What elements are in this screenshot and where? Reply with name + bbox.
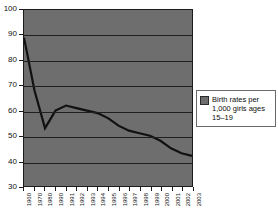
legend-label-line2: 1,000 girls ages xyxy=(212,104,265,113)
x-axis-tick-label: 1995 xyxy=(111,193,117,206)
x-axis-tick-label: 1998 xyxy=(143,193,149,206)
gridline xyxy=(24,61,192,62)
chart-legend: Birth rates per 1,000 girls ages 15–19 xyxy=(196,90,276,127)
y-axis-tick-label: 30 xyxy=(8,183,17,191)
x-axis-tick-label: 1991 xyxy=(69,193,75,206)
chart-figure: 10090807060504030 1960197019801990199119… xyxy=(0,0,278,223)
y-axis-tick-label: 60 xyxy=(8,107,17,115)
y-axis-tick-label: 70 xyxy=(8,81,17,89)
legend-label-line1: Birth rates per xyxy=(212,95,265,104)
plot-area xyxy=(23,9,193,187)
x-axis-tick-mark xyxy=(182,187,183,191)
x-axis-tick-mark xyxy=(97,187,98,191)
x-axis-tick-label: 2000 xyxy=(164,193,170,206)
x-axis-tick-label: 1997 xyxy=(132,193,138,206)
gridline xyxy=(24,112,192,113)
x-axis-tick-label: 1960 xyxy=(26,193,32,206)
x-axis-tick-mark xyxy=(151,187,152,191)
x-axis-tick-label: 1970 xyxy=(37,193,43,206)
x-axis-tick-mark xyxy=(172,187,173,191)
x-axis-tick-mark xyxy=(140,187,141,191)
x-axis-tick-mark xyxy=(55,187,56,191)
x-axis-tick-mark xyxy=(44,187,45,191)
y-axis-tick-label: 80 xyxy=(8,56,17,64)
legend-swatch-icon xyxy=(200,96,209,105)
x-axis-tick-label: 2001 xyxy=(175,193,181,206)
x-axis-tick-mark xyxy=(193,187,194,191)
gridline xyxy=(24,137,192,138)
y-axis-tick-label: 100 xyxy=(4,5,17,13)
x-axis-tick-mark xyxy=(66,187,67,191)
x-axis-tick-label: 1993 xyxy=(90,193,96,206)
x-axis-tick-label: 2003 xyxy=(196,193,202,206)
y-axis-tick-label: 40 xyxy=(8,158,17,166)
x-axis-tick-mark xyxy=(34,187,35,191)
gridline xyxy=(24,163,192,164)
x-axis-tick-label: 1994 xyxy=(100,193,106,206)
y-axis-tick-label: 50 xyxy=(8,132,17,140)
x-axis-tick-label: 1999 xyxy=(154,193,160,206)
x-axis-tick-mark xyxy=(108,187,109,191)
x-axis-tick-mark xyxy=(76,187,77,191)
gridline xyxy=(24,86,192,87)
x-axis-tick-label: 2002 xyxy=(185,193,191,206)
x-axis-tick-mark xyxy=(23,187,24,191)
x-axis-tick-mark xyxy=(119,187,120,191)
x-axis-tick-mark xyxy=(129,187,130,191)
gridline xyxy=(24,35,192,36)
legend-label-line3: 15–19 xyxy=(212,113,265,122)
y-axis-tick-label: 90 xyxy=(8,30,17,38)
legend-label: Birth rates per 1,000 girls ages 15–19 xyxy=(212,95,265,122)
x-axis-tick-mark xyxy=(161,187,162,191)
x-axis-tick-label: 1980 xyxy=(47,193,53,206)
y-axis: 10090807060504030 xyxy=(0,0,23,223)
x-axis-tick-label: 1992 xyxy=(79,193,85,206)
x-axis-tick-mark xyxy=(87,187,88,191)
x-axis-tick-label: 1990 xyxy=(58,193,64,206)
x-axis: 1960197019801990199119921993199419951996… xyxy=(23,187,193,223)
x-axis-tick-label: 1996 xyxy=(122,193,128,206)
